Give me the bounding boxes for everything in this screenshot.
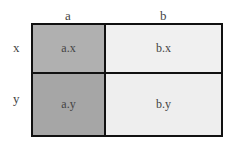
cell-b-y: b.y xyxy=(106,74,221,135)
cell-a-x-label: a.x xyxy=(61,41,75,56)
cell-b-x-label: b.x xyxy=(156,41,171,56)
column-label-b: b xyxy=(160,9,167,22)
row-label-y: y xyxy=(13,92,20,105)
row-label-x: x xyxy=(13,41,20,54)
matrix-grid: a.x b.x a.y b.y xyxy=(31,23,223,137)
cell-a-x: a.x xyxy=(33,25,104,72)
cell-a-y: a.y xyxy=(33,74,104,135)
cell-b-y-label: b.y xyxy=(156,97,171,112)
column-label-a: a xyxy=(65,9,71,22)
cell-b-x: b.x xyxy=(106,25,221,72)
cell-a-y-label: a.y xyxy=(61,97,75,112)
